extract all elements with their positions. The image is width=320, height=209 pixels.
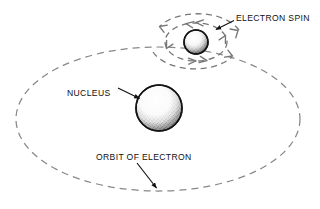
diagram-canvas: ELECTRON SPIN NUCLEUS ORBIT OF ELECTRON [0,0,320,209]
atom-diagram-figure: ELECTRON SPIN NUCLEUS ORBIT OF ELECTRON [0,0,320,209]
orbit-leader [137,163,157,188]
orbit-of-electron-label: ORBIT OF ELECTRON [96,152,192,162]
electron-spin-leader [216,21,234,30]
electron-sphere [184,30,208,54]
nucleus-sphere [136,85,182,131]
electron-spin-label: ELECTRON SPIN [236,13,310,23]
nucleus-leader [118,88,140,99]
nucleus-label: NUCLEUS [67,88,111,98]
